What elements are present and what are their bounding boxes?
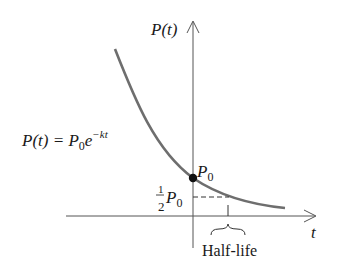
decay-chart: P(t) t P(t) = P0e−kt P0 1 2 P0 Half-life [0,0,341,273]
p0-label: P0 [196,162,213,184]
p0-dot [189,174,197,182]
half-numerator: 1 [158,183,164,195]
x-axis-label: t [311,223,317,242]
half-life-brace [211,224,245,235]
decay-curve [115,49,285,208]
half-life-label: Half-life [202,242,257,259]
half-p0-label: P0 [165,188,182,210]
equation-label: P(t) = P0e−kt [21,128,109,153]
half-denominator: 2 [158,199,165,214]
y-axis-label: P(t) [150,20,178,39]
